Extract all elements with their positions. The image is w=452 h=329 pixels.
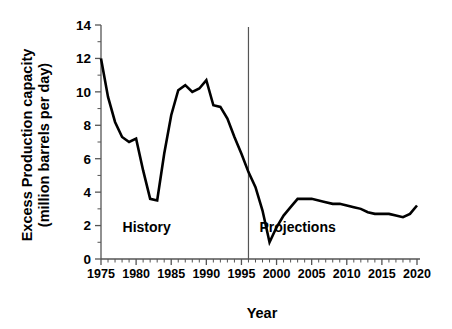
x-axis-tick-label: 1975 xyxy=(87,267,115,281)
x-axis-tick-label: 2010 xyxy=(333,267,361,281)
y-axis-tick-label: 0 xyxy=(83,252,91,267)
chart-figure: 02468101214 1975198019851990199520002005… xyxy=(0,0,452,329)
y-axis-tick-label: 4 xyxy=(83,185,91,200)
y-axis-tick-label: 14 xyxy=(76,18,92,33)
y-axis-tick-label: 10 xyxy=(76,85,91,100)
x-axis-tick-label: 1985 xyxy=(157,267,185,281)
y-axis-tick-label: 12 xyxy=(76,51,91,66)
x-axis-tick-label: 2020 xyxy=(403,267,431,281)
y-axis-tick-label: 2 xyxy=(83,218,91,233)
annotation-label-history: History xyxy=(123,219,171,235)
x-axis-tick-label: 1980 xyxy=(122,267,150,281)
y-axis-tick-label: 6 xyxy=(83,152,91,167)
x-axis-tick-label: 2015 xyxy=(368,267,396,281)
y-axis-title-line2: (million barrels per day) xyxy=(36,63,52,228)
y-axis-tick-label: 8 xyxy=(83,118,91,133)
excess-production-capacity-line-chart: 02468101214 1975198019851990199520002005… xyxy=(0,0,452,329)
y-axis-title-line1: Excess Production capacity xyxy=(19,49,35,242)
x-axis-tick-label: 2005 xyxy=(298,267,326,281)
x-axis-tick-label: 2000 xyxy=(263,267,291,281)
x-axis-title: Year xyxy=(247,305,278,321)
annotation-label-projections: Projections xyxy=(259,219,335,235)
x-axis-tick-label: 1995 xyxy=(228,267,256,281)
x-axis-tick-label: 1990 xyxy=(192,267,220,281)
